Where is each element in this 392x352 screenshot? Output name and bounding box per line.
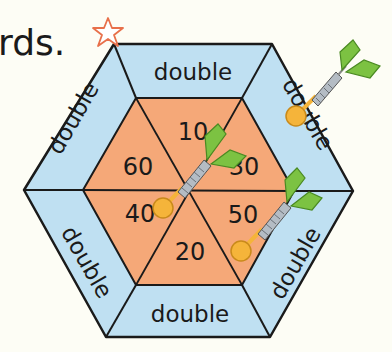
segment-value-50: 50: [228, 201, 259, 229]
segment-value-20: 20: [175, 238, 206, 266]
outer-label-bottom: double: [151, 301, 229, 327]
segment-value-40: 40: [125, 200, 156, 228]
star-icon: [93, 18, 123, 46]
outer-label-top: double: [154, 59, 232, 85]
segment-value-10: 10: [178, 118, 209, 146]
segment-value-60: 60: [123, 153, 154, 181]
dartboard: double double double double double doubl…: [0, 0, 392, 352]
